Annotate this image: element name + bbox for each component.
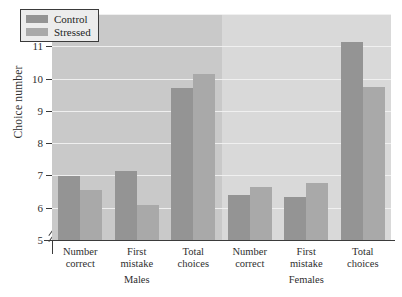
y-tick-label: 7 (38, 170, 44, 181)
bar-stressed-3 (250, 187, 272, 240)
y-tick (46, 240, 52, 241)
legend-label-stressed: Stressed (54, 26, 91, 38)
legend: Control Stressed (20, 9, 99, 42)
legend-swatch-stressed-icon (26, 28, 48, 36)
bar-control-4 (284, 197, 306, 240)
x-axis-line (44, 240, 395, 241)
y-tick (46, 208, 52, 209)
bar-stressed-1 (137, 205, 159, 241)
legend-item-stressed: Stressed (26, 26, 91, 38)
y-tick-label: 5 (38, 235, 44, 246)
bar-control-3 (228, 195, 250, 240)
category-label-line1: Total (323, 246, 402, 258)
y-tick (46, 175, 52, 176)
group-label-males: Males (87, 274, 187, 285)
bar-control-0 (58, 176, 80, 240)
y-axis-label: Choice number (12, 32, 24, 172)
y-tick-label: 11 (32, 41, 43, 52)
bar-stressed-0 (80, 190, 102, 240)
y-tick-label: 9 (38, 105, 44, 116)
bar-stressed-5 (363, 87, 385, 240)
legend-item-control: Control (26, 13, 91, 25)
legend-label-control: Control (54, 13, 88, 25)
y-tick (46, 111, 52, 112)
y-tick (46, 143, 52, 144)
bar-control-1 (115, 171, 137, 240)
y-tick-label: 6 (38, 202, 44, 213)
bar-stressed-4 (306, 183, 328, 240)
y-tick-label: 8 (38, 138, 44, 149)
bar-control-2 (171, 88, 193, 240)
category-label-line2: choices (323, 258, 402, 270)
bar-control-5 (341, 42, 363, 240)
bar-stressed-2 (193, 74, 215, 240)
group-label-females: Females (256, 274, 356, 285)
plot-area: 56789101112 (52, 14, 391, 240)
legend-swatch-control-icon (26, 15, 48, 23)
y-tick (46, 46, 52, 47)
gridline (52, 14, 391, 15)
y-tick (46, 79, 52, 80)
bar-chart-figure: Choice number 56789101112 Control Stress… (0, 0, 402, 297)
y-tick-label: 10 (32, 73, 43, 84)
category-label: Totalchoices (323, 246, 402, 269)
